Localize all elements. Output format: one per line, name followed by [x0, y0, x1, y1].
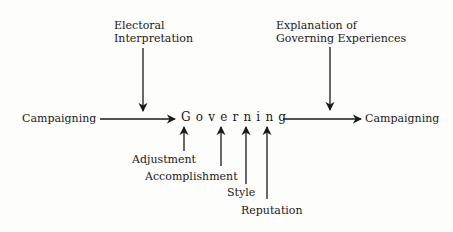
accomplishment-label: Accomplishment — [145, 170, 238, 183]
electoral-interpretation-label: Electoral Interpretation — [114, 19, 193, 45]
campaigning-right-label: Campaigning — [365, 112, 439, 125]
explanation-label: Explanation of Governing Experiences — [276, 19, 406, 45]
governing-cycle-diagram: Electoral Interpretation Explanation of … — [0, 0, 453, 232]
adjustment-label: Adjustment — [132, 153, 196, 166]
reputation-label: Reputation — [241, 204, 303, 217]
label-line: Electoral — [114, 19, 193, 32]
style-label: Style — [227, 186, 255, 199]
governing-label: Governing — [181, 110, 291, 124]
label-line: Explanation of — [276, 19, 406, 32]
campaigning-left-label: Campaigning — [22, 112, 96, 125]
label-line: Interpretation — [114, 32, 193, 45]
label-line: Governing Experiences — [276, 32, 406, 45]
